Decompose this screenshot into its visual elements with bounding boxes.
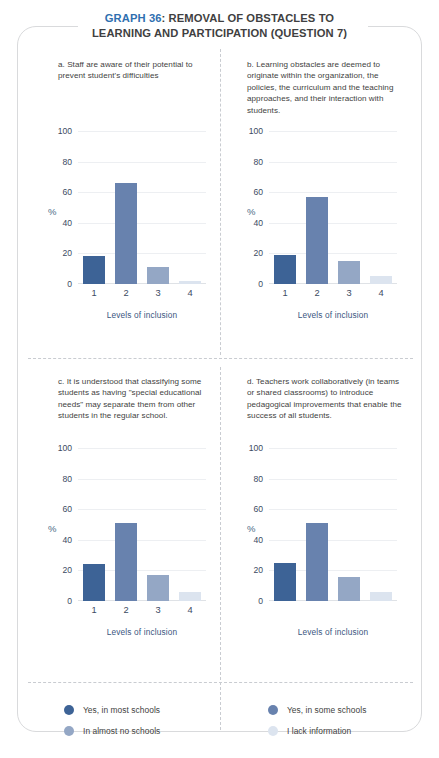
chart-panel-d: d. Teachers work collaboratively (in tea… bbox=[221, 364, 423, 680]
bar[interactable] bbox=[147, 575, 169, 601]
plot-area-c: 100 80 60 40 20 0 % 1 2 3 4 Levels of in… bbox=[78, 448, 206, 601]
chart-caption-d: d. Teachers work collaboratively (in tea… bbox=[247, 376, 407, 422]
xtick-label: 3 bbox=[335, 288, 363, 298]
xtick-label: 2 bbox=[112, 288, 140, 298]
bar[interactable] bbox=[179, 281, 201, 284]
legend: Yes, in most schools In almost no school… bbox=[18, 691, 423, 733]
x-axis-title: Levels of inclusion bbox=[78, 627, 206, 637]
plot-area-d: 100 80 60 40 20 0 % Levels of inclusion bbox=[269, 448, 397, 601]
bar[interactable] bbox=[83, 256, 105, 284]
x-axis-title: Levels of inclusion bbox=[269, 310, 397, 320]
bar[interactable] bbox=[370, 276, 392, 284]
ytick-label: 20 bbox=[253, 248, 263, 258]
legend-swatch-icon bbox=[268, 705, 278, 715]
y-axis-title: % bbox=[247, 205, 255, 216]
ytick-label: 40 bbox=[62, 535, 72, 545]
xtick-label: 1 bbox=[271, 288, 299, 298]
xtick-label: 3 bbox=[144, 605, 172, 615]
legend-swatch-icon bbox=[64, 705, 74, 715]
chart-caption-b: b. Learning obstacles are deemed to orig… bbox=[247, 59, 407, 116]
page-title-accent: GRAPH 36 bbox=[105, 12, 162, 24]
ytick-label: 0 bbox=[67, 279, 72, 289]
bar-series-d bbox=[269, 448, 397, 601]
legend-item[interactable]: Yes, in most schools bbox=[64, 699, 254, 720]
legend-item[interactable]: Yes, in some schools bbox=[268, 699, 439, 720]
ytick-label: 40 bbox=[253, 535, 263, 545]
y-axis-title: % bbox=[48, 522, 56, 533]
xtick-label: 4 bbox=[176, 605, 204, 615]
plot-area-a: 100 80 60 40 20 0 % 1 2 3 4 Levels of in… bbox=[78, 131, 206, 284]
chart-caption-c: c. It is understood that classifying som… bbox=[58, 376, 210, 422]
bar[interactable] bbox=[147, 267, 169, 284]
legend-item[interactable]: I lack information bbox=[268, 720, 439, 741]
x-axis-title: Levels of inclusion bbox=[78, 310, 206, 320]
chart-card: a. Staff are aware of their potential to… bbox=[17, 26, 422, 732]
xtick-label: 2 bbox=[112, 605, 140, 615]
legend-item[interactable]: In almost no schools bbox=[64, 720, 254, 741]
ytick-label: 80 bbox=[62, 474, 72, 484]
ytick-label: 100 bbox=[249, 126, 263, 136]
x-axis-title: Levels of inclusion bbox=[269, 627, 397, 637]
ytick-label: 40 bbox=[253, 218, 263, 228]
ytick-label: 0 bbox=[258, 279, 263, 289]
chart-panel-c: c. It is understood that classifying som… bbox=[18, 364, 220, 680]
xtick-label: 1 bbox=[80, 605, 108, 615]
legend-label: I lack information bbox=[287, 726, 351, 736]
bar-series-c bbox=[78, 448, 206, 601]
ytick-label: 40 bbox=[62, 218, 72, 228]
xtick-label: 3 bbox=[144, 288, 172, 298]
ytick-label: 80 bbox=[253, 157, 263, 167]
bar[interactable] bbox=[306, 197, 328, 284]
page-title-rest: : REMOVAL OF OBSTACLES TO bbox=[162, 12, 335, 24]
ytick-label: 0 bbox=[67, 596, 72, 606]
bar[interactable] bbox=[306, 523, 328, 601]
xtick-label: 1 bbox=[80, 288, 108, 298]
xtick-label: 2 bbox=[303, 288, 331, 298]
ytick-label: 20 bbox=[62, 565, 72, 575]
ytick-label: 100 bbox=[58, 443, 72, 453]
ytick-label: 20 bbox=[253, 565, 263, 575]
xtick-label: 4 bbox=[176, 288, 204, 298]
legend-label: Yes, in most schools bbox=[83, 705, 160, 715]
ytick-label: 100 bbox=[58, 126, 72, 136]
ytick-label: 60 bbox=[253, 504, 263, 514]
bar-series-b bbox=[269, 131, 397, 284]
bar-series-a bbox=[78, 131, 206, 284]
bar[interactable] bbox=[115, 183, 137, 284]
ytick-label: 60 bbox=[62, 187, 72, 197]
legend-column-left: Yes, in most schools In almost no school… bbox=[64, 699, 254, 741]
chart-caption-a: a. Staff are aware of their potential to… bbox=[58, 59, 210, 82]
plot-area-b: 100 80 60 40 20 0 % 1 2 3 4 Levels of in… bbox=[269, 131, 397, 284]
ytick-label: 80 bbox=[253, 474, 263, 484]
bar[interactable] bbox=[370, 592, 392, 601]
chart-panel-b: b. Learning obstacles are deemed to orig… bbox=[221, 47, 423, 363]
quadrant-grid: a. Staff are aware of their potential to… bbox=[18, 27, 423, 733]
bar[interactable] bbox=[115, 523, 137, 601]
ytick-label: 60 bbox=[62, 504, 72, 514]
bar[interactable] bbox=[338, 261, 360, 284]
bar[interactable] bbox=[338, 577, 360, 601]
xtick-label: 4 bbox=[367, 288, 395, 298]
bar[interactable] bbox=[274, 563, 296, 601]
ytick-label: 80 bbox=[62, 157, 72, 167]
legend-swatch-icon bbox=[64, 726, 74, 736]
legend-swatch-icon bbox=[268, 726, 278, 736]
bar[interactable] bbox=[274, 255, 296, 284]
y-axis-title: % bbox=[247, 522, 255, 533]
bar[interactable] bbox=[179, 592, 201, 601]
ytick-label: 20 bbox=[62, 248, 72, 258]
y-axis-title: % bbox=[48, 205, 56, 216]
legend-label: Yes, in some schools bbox=[287, 705, 366, 715]
legend-column-right: Yes, in some schools I lack information bbox=[268, 699, 439, 741]
ytick-label: 60 bbox=[253, 187, 263, 197]
chart-panel-a: a. Staff are aware of their potential to… bbox=[18, 47, 220, 363]
ytick-label: 100 bbox=[249, 443, 263, 453]
bar[interactable] bbox=[83, 564, 105, 601]
ytick-label: 0 bbox=[258, 596, 263, 606]
legend-label: In almost no schools bbox=[83, 726, 160, 736]
